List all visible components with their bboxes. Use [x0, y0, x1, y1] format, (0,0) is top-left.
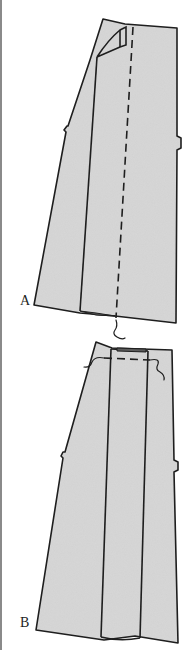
- step-b-label: B: [20, 615, 29, 630]
- step-a-thread-tail: [114, 320, 125, 339]
- step-a-panel: [34, 19, 181, 323]
- step-b: B: [20, 342, 178, 643]
- step-b-panel: [36, 342, 178, 643]
- sewing-illustration: A B: [0, 0, 196, 650]
- step-a-label: A: [20, 293, 31, 308]
- step-b-top-fold: [117, 348, 146, 352]
- step-a: A: [20, 19, 181, 339]
